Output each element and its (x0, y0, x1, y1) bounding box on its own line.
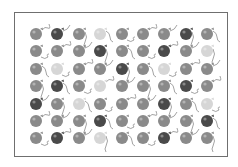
balloon-medium (137, 131, 161, 153)
balloon-medium (73, 131, 97, 153)
balloon-medium (116, 131, 140, 153)
balloon-light (94, 131, 118, 153)
balloon-dark (51, 131, 75, 153)
balloon-medium (201, 131, 225, 153)
balloon-dark (158, 131, 182, 153)
balloon-medium (180, 131, 204, 153)
balloon-grid (0, 0, 238, 167)
balloon-medium (30, 131, 54, 153)
